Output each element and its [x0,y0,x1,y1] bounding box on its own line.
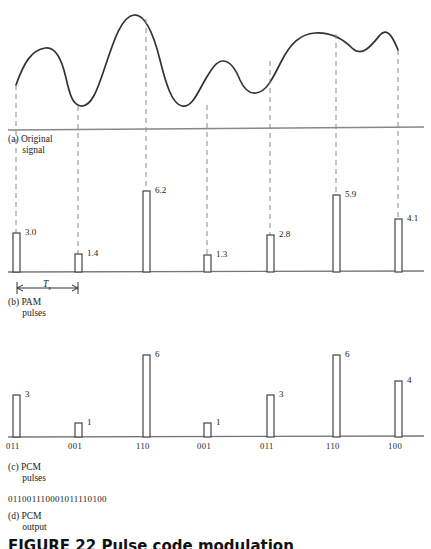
pcm-code-label-4: 001 [197,441,211,451]
pcm-value-label-3: 6 [155,349,160,359]
pam-pulses-panel [8,191,424,294]
sampling-dashed-lines-a [16,19,398,272]
pcm-value-label-2: 1 [87,417,92,427]
pcm-pulse-7 [395,381,402,437]
pcm-code-label-5: 011 [260,441,274,451]
sampling-interval-subscript: s [48,284,51,291]
pam-pulse-4 [204,255,211,272]
pam-value-label-3: 6.2 [155,185,166,195]
pcm-value-label-7: 4 [407,375,412,385]
sampling-interval-label: Ts [43,279,51,291]
pam-value-label-4: 1.3 [216,249,227,259]
pcm-pulse-6 [333,355,340,437]
pcm-value-label-1: 3 [25,389,30,399]
pcm-figure-svg [0,0,431,549]
pcm-code-label-2: 001 [68,441,82,451]
figure-caption: FIGURE 22 Pulse code modulation [8,537,294,549]
pcm-value-label-4: 1 [216,417,221,427]
pcm-code-label-3: 110 [136,441,150,451]
pcm-code-label-1: 011 [6,441,20,451]
pcm-pulse-2 [75,423,82,437]
pcm-pulse-5 [267,395,274,437]
original-signal-panel [8,15,424,272]
pcm-pulse-1 [13,395,20,437]
panel-label-c: (c) PCM pulses [8,462,46,484]
pcm-code-label-7: 100 [388,441,402,451]
pam-pulse-2 [75,254,82,272]
pcm-value-label-5: 3 [279,389,284,399]
analog-waveform-curve [16,15,398,106]
pam-value-label-7: 4.1 [407,213,418,223]
pam-pulse-1 [13,233,20,272]
pcm-pulse-4 [204,423,211,437]
pam-value-label-1: 3.0 [25,227,36,237]
pam-value-label-5: 2.8 [279,229,290,239]
pam-pulse-3 [143,191,150,272]
pam-pulse-5 [267,235,274,272]
panel-label-b: (b) PAM pulses [8,297,46,319]
figure-pulse-code-modulation: 3.0 1.4 6.2 1.3 2.8 5.9 4.1 3 1 6 1 3 6 … [0,0,431,549]
pam-pulse-7 [395,219,402,272]
original-signal-baseline [8,127,424,130]
panel-label-d: (d) PCM output [8,511,47,533]
pcm-baseline [8,436,424,437]
pam-pulse-6 [333,195,340,272]
pcm-code-label-6: 110 [326,441,340,451]
pam-value-label-6: 5.9 [345,189,356,199]
pam-baseline [8,271,424,272]
pcm-pulse-3 [143,355,150,437]
pcm-value-label-6: 6 [345,349,350,359]
pam-value-label-2: 1.4 [87,248,98,258]
pcm-output-bitstream: 011001110001011110100 [8,494,107,504]
panel-label-a: (a) Original signal [8,134,53,156]
